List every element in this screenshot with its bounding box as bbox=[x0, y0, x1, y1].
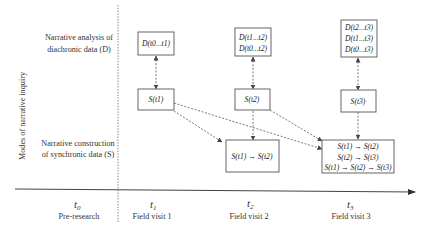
arrow-s-t1-sync-t2 bbox=[174, 111, 222, 142]
time-point-t2: t2 Field visit 2 bbox=[229, 197, 268, 221]
svg-text:D(t0...t3): D(t0...t3) bbox=[344, 45, 374, 54]
svg-text:S(t1) → S(t2): S(t1) → S(t2) bbox=[338, 142, 379, 151]
narrative-inquiry-diagram: Modes of narrative inquiry Narrative ana… bbox=[0, 0, 430, 235]
svg-text:Pre-research: Pre-research bbox=[59, 212, 100, 221]
time-point-t3: t3 Field visit 3 bbox=[331, 198, 370, 221]
box-s-t2: S(t2) bbox=[235, 89, 270, 110]
svg-text:t3: t3 bbox=[347, 198, 354, 212]
time-axis bbox=[15, 189, 415, 192]
box-s-t3: S(t3) bbox=[341, 90, 376, 112]
row-label-diachronic-2: diachronic data (D) bbox=[47, 45, 111, 54]
row-label-diachronic-1: Narrative analysis of bbox=[45, 33, 113, 42]
row-label-synchronic-2: of synchronic data (S) bbox=[42, 150, 115, 159]
svg-text:Field visit 2: Field visit 2 bbox=[229, 212, 268, 221]
svg-text:S(t1) → S(t2) → S(t3): S(t1) → S(t2) → S(t3) bbox=[324, 163, 392, 172]
arrow-s-t2-sync-t3 bbox=[270, 110, 322, 141]
svg-text:D(t2...t3): D(t2...t3) bbox=[344, 23, 374, 32]
svg-text:D(t1...t2): D(t1...t2) bbox=[238, 33, 268, 42]
svg-text:t1: t1 bbox=[150, 198, 157, 212]
box-sync-t3: S(t1) → S(t2) S(t2) → S(t3) S(t1) → S(t2… bbox=[322, 140, 394, 173]
svg-text:D(t0...t1): D(t0...t1) bbox=[141, 39, 171, 48]
svg-text:Field visit 3: Field visit 3 bbox=[331, 212, 370, 221]
time-point-t1: t1 Field visit 1 bbox=[132, 198, 171, 221]
svg-text:S(t3): S(t3) bbox=[351, 97, 366, 106]
svg-text:Field visit 1: Field visit 1 bbox=[132, 212, 171, 221]
svg-text:S(t1) → S(t2): S(t1) → S(t2) bbox=[232, 152, 273, 161]
svg-text:t0: t0 bbox=[74, 198, 81, 212]
svg-text:S(t2) → S(t3): S(t2) → S(t3) bbox=[338, 153, 379, 162]
svg-text:D(t0...t2): D(t0...t2) bbox=[238, 44, 268, 53]
row-label-synchronic-1: Narrative construction bbox=[41, 139, 114, 148]
y-axis-label: Modes of narrative inquiry bbox=[18, 71, 27, 160]
svg-text:D(t1...t3): D(t1...t3) bbox=[344, 34, 374, 43]
box-sync-t2: S(t1) → S(t2) bbox=[226, 140, 279, 172]
svg-text:t2: t2 bbox=[247, 197, 254, 211]
svg-text:S(t1): S(t1) bbox=[149, 95, 164, 104]
box-d-t1: D(t0...t1) bbox=[138, 32, 174, 55]
box-d-t3: D(t2...t3) D(t1...t3) D(t0...t3) bbox=[341, 20, 377, 57]
time-point-t0: t0 Pre-research bbox=[59, 198, 100, 221]
box-s-t1: S(t1) bbox=[138, 89, 174, 110]
svg-text:S(t2): S(t2) bbox=[245, 95, 260, 104]
box-d-t2: D(t1...t2) D(t0...t2) bbox=[235, 28, 271, 56]
